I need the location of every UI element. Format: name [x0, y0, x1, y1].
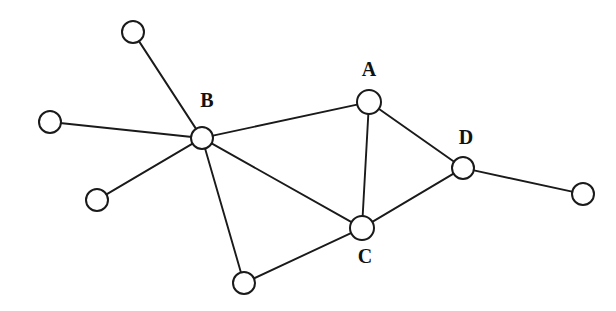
graph-node-unlabeled-n3[interactable] — [86, 189, 108, 211]
graph-edge-A-D — [378, 108, 455, 162]
graph-edge-n4-C — [253, 233, 352, 279]
node-label-D: D — [459, 126, 473, 148]
graph-edge-n2-B — [60, 123, 192, 137]
node-label-B: B — [200, 89, 213, 111]
node-label-C: C — [358, 245, 372, 267]
label-layer: BACD — [200, 58, 473, 267]
graph-node-A[interactable] — [357, 90, 381, 114]
node-layer — [39, 21, 594, 294]
network-diagram-canvas: BACD — [0, 0, 616, 311]
graph-node-B[interactable] — [191, 127, 213, 149]
graph-edge-n1-B — [138, 40, 196, 129]
graph-node-unlabeled-n5[interactable] — [572, 183, 594, 205]
graph-node-C[interactable] — [350, 216, 374, 240]
graph-edge-C-D — [371, 173, 454, 222]
network-graph-svg: BACD — [0, 0, 616, 311]
graph-node-unlabeled-n2[interactable] — [39, 111, 61, 133]
edge-layer — [60, 40, 573, 278]
graph-node-unlabeled-n1[interactable] — [122, 21, 144, 43]
graph-edge-D-n5 — [473, 170, 573, 192]
graph-node-D[interactable] — [452, 157, 474, 179]
graph-node-unlabeled-n4[interactable] — [233, 272, 255, 294]
graph-edge-n3-B — [106, 143, 194, 195]
graph-edge-B-n4 — [205, 148, 241, 274]
graph-edge-A-C — [363, 113, 369, 217]
graph-edge-B-C — [211, 143, 353, 223]
graph-edge-B-A — [212, 104, 358, 136]
node-label-A: A — [362, 58, 377, 80]
